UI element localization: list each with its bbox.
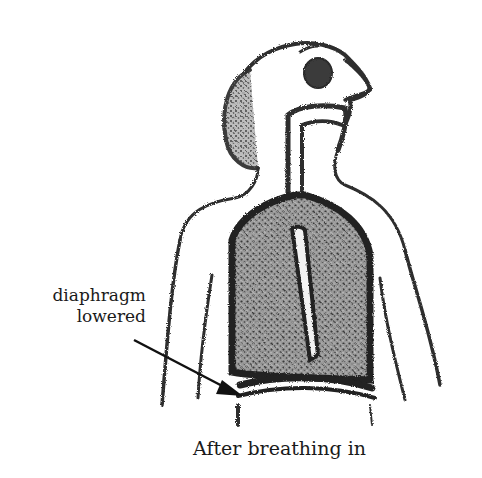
waist-right [370, 405, 372, 425]
arrow-icon [134, 340, 243, 396]
right-side [380, 278, 405, 400]
figure-caption: After breathing in [193, 437, 366, 459]
diaphragm [238, 378, 375, 398]
eyebrow [300, 46, 318, 52]
lungs [232, 195, 370, 380]
diaphragm-annotation: diaphragm lowered [52, 285, 146, 327]
right-arm [405, 250, 440, 385]
annotation-line-1: diaphragm [52, 285, 146, 306]
eye [304, 58, 332, 88]
left-arm [162, 240, 180, 405]
breathing-diagram [0, 0, 482, 478]
head-back [224, 70, 258, 168]
annotation-line-2: lowered [52, 306, 146, 327]
